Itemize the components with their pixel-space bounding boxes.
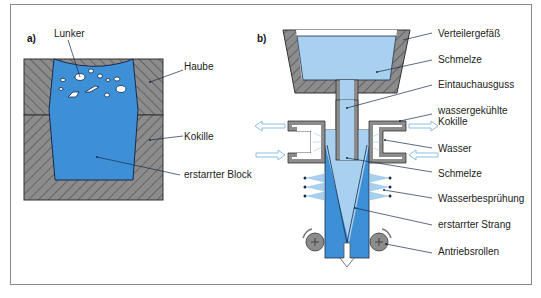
- label-kokille-line1: wassergekühlte: [437, 105, 508, 116]
- label-haube: Haube: [184, 61, 214, 72]
- label-schmelze-top: Schmelze: [438, 54, 482, 65]
- leader-dot: [149, 139, 151, 141]
- leader-dot: [96, 156, 98, 158]
- water-in-arrow-left: [256, 150, 285, 160]
- label-erstarrter-strang: erstarrter Strang: [438, 219, 511, 230]
- label-wasser: Wasser: [438, 143, 472, 154]
- tundish-melt: [297, 36, 396, 80]
- label-kokille: Kokille: [184, 131, 214, 142]
- label-antriebsrollen: Antriebsrollen: [438, 246, 499, 257]
- label-erstarrter-block: erstarrter Block: [184, 169, 253, 180]
- label-kokille-line2: Kokille: [438, 116, 468, 127]
- ingot-mold-a: [24, 59, 163, 200]
- water-in-arrow-right: [409, 150, 438, 160]
- label-eintauchausguss: Eintauchausguss: [438, 79, 514, 90]
- label-verteilergefaess: Verteilergefäß: [438, 28, 500, 39]
- water-out-arrow-left: [255, 121, 285, 131]
- leader-dot: [149, 81, 151, 83]
- solidified-block: [49, 59, 138, 180]
- label-schmelze-mid: Schmelze: [438, 168, 482, 179]
- panel-b-label: b): [257, 33, 266, 44]
- label-wasserbespruehung: Wasserbesprühung: [438, 193, 524, 204]
- label-lunker: Lunker: [54, 28, 85, 39]
- water-out-arrow-right: [409, 121, 438, 131]
- panel-a-label: a): [27, 33, 36, 44]
- casting-diagram: a) Lunker Haube Kokille: [0, 0, 541, 298]
